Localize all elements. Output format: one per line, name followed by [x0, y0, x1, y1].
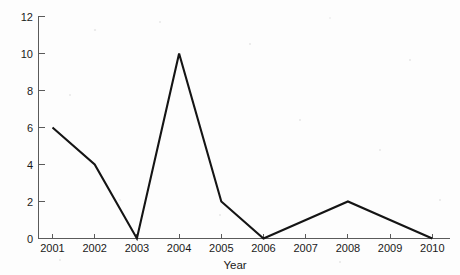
- x-tick-label: 2010: [420, 242, 444, 254]
- y-tick-label: 4: [27, 159, 33, 171]
- line-chart: 12 10 8 6 4 2 0: [0, 0, 460, 275]
- x-tick-label: 2008: [336, 242, 360, 254]
- x-tick-label: 2007: [293, 242, 317, 254]
- chart-background: [0, 0, 460, 275]
- x-tick-label: 2003: [125, 242, 149, 254]
- x-tick-label: 2001: [40, 242, 64, 254]
- y-tick-label: 8: [27, 85, 33, 97]
- y-tick-label: 10: [21, 48, 33, 60]
- y-tick-label: 6: [27, 122, 33, 134]
- y-tick-label: 2: [27, 196, 33, 208]
- y-tick-label: 0: [27, 233, 33, 245]
- x-tick-label: 2009: [378, 242, 402, 254]
- x-tick-label: 2005: [209, 242, 233, 254]
- x-tick-label: 2004: [167, 242, 191, 254]
- x-axis-title: Year: [223, 259, 246, 271]
- x-tick-label: 2006: [251, 242, 275, 254]
- chart-canvas: 12 10 8 6 4 2 0: [0, 0, 460, 275]
- x-tick-label: 2002: [82, 242, 106, 254]
- y-tick-label: 12: [21, 11, 33, 23]
